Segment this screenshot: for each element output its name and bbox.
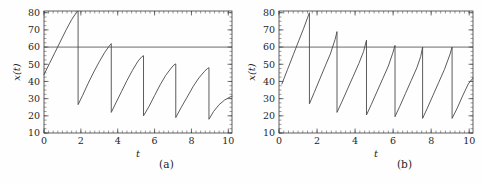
y-tick-label: 80: [263, 7, 275, 18]
x-tick-label: 10: [463, 135, 475, 146]
panel-a-caption: (a): [0, 158, 241, 170]
y-tick-label: 70: [28, 24, 40, 35]
y-axis-label: x(t): [246, 63, 257, 81]
y-tick-label: 40: [28, 76, 40, 87]
x-tick-label: 2: [78, 135, 84, 146]
y-tick-label: 10: [28, 127, 40, 138]
y-tick-label: 50: [263, 59, 275, 70]
panel-b: 02468101020304050607080tx(t) (b): [241, 0, 482, 184]
y-tick-label: 10: [263, 127, 275, 138]
figure-root: 02468101020304050607080tx(t) (a) 0246810…: [0, 0, 482, 184]
y-tick-label: 70: [263, 24, 275, 35]
y-tick-label: 50: [28, 59, 40, 70]
signal-curve: [44, 11, 232, 119]
y-tick-label: 30: [263, 93, 275, 104]
y-tick-label: 20: [28, 110, 40, 121]
x-tick-label: 0: [276, 135, 282, 146]
x-tick-label: 8: [428, 135, 434, 146]
y-axis-label: x(t): [11, 63, 22, 81]
signal-curve: [282, 13, 473, 119]
plot-b: 02468101020304050607080tx(t): [241, 0, 482, 160]
x-tick-label: 0: [41, 135, 47, 146]
plot-a: 02468101020304050607080tx(t): [0, 0, 241, 160]
y-tick-label: 20: [263, 110, 275, 121]
y-tick-label: 60: [263, 41, 275, 52]
x-tick-label: 2: [314, 135, 320, 146]
panel-b-caption: (b): [241, 158, 482, 170]
plot-frame: [279, 11, 473, 133]
y-tick-label: 30: [28, 93, 40, 104]
x-tick-label: 8: [188, 135, 194, 146]
x-tick-label: 6: [152, 135, 158, 146]
y-tick-label: 80: [28, 7, 40, 18]
x-tick-label: 6: [390, 135, 396, 146]
x-tick-label: 4: [115, 135, 121, 146]
y-tick-label: 40: [263, 76, 275, 87]
x-tick-label: 4: [352, 135, 358, 146]
x-tick-label: 10: [222, 135, 234, 146]
y-tick-label: 60: [28, 41, 40, 52]
panel-a: 02468101020304050607080tx(t) (a): [0, 0, 241, 184]
